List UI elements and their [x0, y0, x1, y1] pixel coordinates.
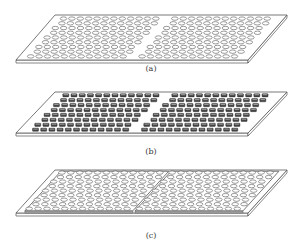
plate-b: [16, 92, 287, 136]
panel-label-b: (b): [145, 147, 156, 156]
panel-label-a: (a): [145, 64, 156, 73]
panel-label-c: (c): [146, 231, 157, 240]
plates-diagram: [0, 0, 302, 248]
plate-c: [16, 170, 287, 216]
plate-a: [16, 15, 287, 63]
